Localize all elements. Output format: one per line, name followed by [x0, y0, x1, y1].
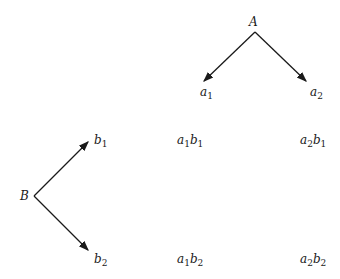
- factor-a-label: A: [249, 16, 258, 28]
- arrow-b-to-b1: [34, 142, 88, 196]
- factor-b-label: B: [20, 190, 29, 202]
- combo-b-sub: 1: [198, 139, 204, 149]
- tree-arrows: [0, 0, 340, 279]
- level-b1-label: b1: [94, 134, 107, 149]
- combo-b: b: [313, 133, 321, 147]
- level-a2-sub: 2: [317, 91, 323, 101]
- level-b1-sub: 1: [102, 139, 108, 149]
- combo-a1b2: a1b2: [177, 253, 203, 268]
- combo-a2b2: a2b2: [300, 253, 326, 268]
- arrow-a-to-a1: [204, 32, 255, 81]
- arrow-a-to-a2: [255, 32, 306, 81]
- level-a1-label: a1: [200, 86, 213, 101]
- level-b2-base: b: [94, 252, 102, 266]
- combo-a2b1: a2b1: [300, 134, 326, 149]
- factor-b-text: B: [20, 189, 29, 203]
- level-b2-label: b2: [94, 253, 107, 268]
- factor-a-text: A: [249, 15, 258, 29]
- combo-b: b: [190, 133, 198, 147]
- level-a1-sub: 1: [207, 91, 213, 101]
- combo-b-sub: 2: [321, 258, 327, 268]
- arrow-b-to-b2: [34, 196, 88, 250]
- combo-b-sub: 2: [198, 258, 204, 268]
- level-a2-label: a2: [310, 86, 323, 101]
- combo-b-sub: 1: [321, 139, 327, 149]
- level-b1-base: b: [94, 133, 102, 147]
- combo-a1b1: a1b1: [177, 134, 203, 149]
- combo-b: b: [313, 252, 321, 266]
- combo-b: b: [190, 252, 198, 266]
- level-b2-sub: 2: [102, 258, 108, 268]
